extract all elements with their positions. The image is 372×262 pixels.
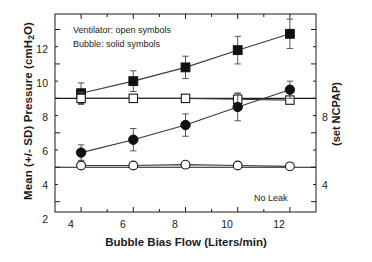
- data-point-marker: [233, 161, 242, 170]
- data-point-marker: [286, 29, 295, 38]
- data-point-marker: [181, 160, 190, 169]
- data-point-marker: [129, 77, 138, 86]
- data-point-marker: [233, 102, 242, 111]
- data-point-marker: [129, 135, 138, 144]
- data-point-marker: [181, 63, 190, 72]
- series-2: [76, 81, 294, 160]
- data-point-marker: [181, 94, 189, 102]
- data-point-marker: [286, 162, 295, 171]
- series-3: [77, 160, 295, 171]
- data-point-marker: [76, 148, 85, 157]
- data-point-marker: [77, 161, 86, 170]
- data-point-marker: [181, 120, 190, 129]
- data-point-marker: [285, 85, 294, 94]
- series-0: [77, 19, 295, 103]
- plot-frame: [55, 14, 316, 212]
- chart-figure: Mean (+/- SD) Pressure (cmH2O) (set NCPA…: [0, 0, 372, 262]
- data-point-marker: [129, 161, 138, 170]
- data-point-marker: [77, 94, 85, 102]
- data-point-marker: [233, 46, 242, 55]
- plot-canvas: [0, 0, 372, 262]
- data-point-marker: [129, 94, 137, 102]
